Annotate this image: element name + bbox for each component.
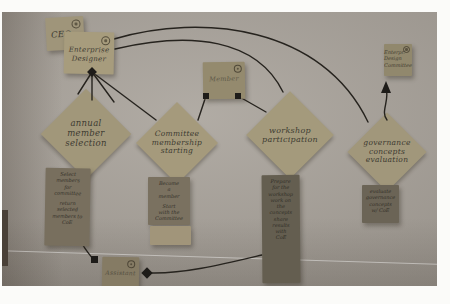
note-line: workshop: [269, 126, 311, 135]
select-members-task-lines: Selectmembersforcommitteereturnselectedm…: [44, 168, 90, 247]
note-line: selection: [65, 139, 106, 149]
note-line: committee: [54, 190, 81, 197]
sticky-note-diagram-photo: annualmemberselection Committeemembershi…: [0, 0, 450, 304]
edc-label: Enterpr.DesignCommittee: [384, 49, 412, 68]
note-line: evaluation: [366, 156, 409, 165]
actor-badge-icon: [127, 260, 135, 268]
note-workshop-tasks: Preparefor theworkshopwork ontheconcepts…: [262, 175, 301, 283]
note-workshop-participation: workshopparticipation: [246, 91, 334, 179]
note-become-member-tasks: BecomeamemberStartwith theCommittee: [148, 177, 190, 225]
assistant-label: Assistant: [102, 269, 139, 277]
committee-membership-starting-label: Committeemembershipstarting: [148, 114, 206, 172]
note-line: participation: [262, 135, 318, 144]
note-line: member: [159, 193, 180, 199]
note-committee-membership-starting: Committeemembershipstarting: [136, 102, 218, 184]
note-select-members-tasks: Selectmembersforcommitteereturnselectedm…: [44, 168, 90, 247]
note-enterprise-design-committee: Enterpr.DesignCommittee: [384, 44, 412, 76]
annual-member-selection-label: annualmemberselection: [54, 102, 118, 166]
note-annual-member-selection: annualmemberselection: [41, 89, 132, 180]
note-governance-tasks: evaluategovernanceconceptsw/ CoE: [362, 185, 399, 223]
note-governance-concepts-evaluation: governanceconceptsevaluation: [347, 112, 426, 191]
note-line: CoE: [62, 219, 73, 225]
note-line: starting: [161, 147, 193, 156]
left-edge-object: [2, 210, 8, 266]
note-line: Committee: [384, 62, 412, 68]
member-label: Member: [203, 75, 245, 84]
actor-badge-icon: [71, 19, 80, 28]
actor-badge-icon: [234, 65, 242, 73]
enterprise-designer-label: EnterpriseDesigner: [64, 32, 115, 75]
photo-crease-line: [2, 250, 437, 266]
note-assistant: Assistant: [102, 257, 140, 286]
note-member: Member: [203, 62, 246, 100]
become-member-task-lines: BecomeamemberStartwith theCommittee: [148, 177, 190, 225]
note-line: Designer: [64, 55, 114, 65]
note-line: Committee: [155, 215, 183, 221]
note-blank: [150, 226, 191, 245]
workshop-participation-label: workshopparticipation: [259, 104, 321, 166]
note-line: w/ CoE: [371, 207, 389, 213]
workshop-task-lines: Preparefor theworkshopwork ontheconcepts…: [262, 175, 301, 283]
governance-concepts-evaluation-label: governanceconceptsevaluation: [359, 124, 415, 180]
note-line: CoE: [276, 234, 287, 240]
wall-photo: annualmemberselection Committeemembershi…: [2, 12, 437, 286]
note-enterprise-designer: EnterpriseDesigner: [64, 32, 115, 75]
governance-task-lines: evaluategovernanceconceptsw/ CoE: [362, 185, 399, 223]
